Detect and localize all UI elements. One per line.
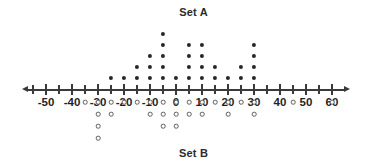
axis-tick-25 [240, 85, 241, 94]
data-point [174, 100, 179, 105]
data-point [83, 100, 88, 105]
axis-label-40: 40 [274, 96, 287, 108]
axis-tick-45 [292, 85, 293, 94]
data-point [226, 112, 231, 117]
data-point [252, 100, 257, 105]
axis-arrow-left [22, 86, 28, 92]
dot-plot-figure: Set A -50-40-30-20-100102030405060 Set B [0, 0, 387, 165]
axis-tick--45 [58, 85, 59, 94]
axis-tick-35 [266, 85, 267, 94]
data-point [148, 100, 153, 105]
axis-line [27, 89, 346, 91]
axis-tick-5 [188, 85, 189, 94]
axis-tick-15 [214, 85, 215, 94]
data-point [96, 136, 101, 141]
axis-tick-55 [318, 85, 319, 94]
axis-tick-10 [201, 84, 202, 95]
axis-tick--25 [110, 85, 111, 94]
axis-tick--35 [84, 85, 85, 94]
data-point [122, 100, 127, 105]
set-b-title: Set B [0, 147, 387, 159]
axis-tick-30 [253, 84, 254, 95]
data-point [226, 100, 231, 105]
axis-tick-0 [175, 84, 176, 95]
data-point [213, 100, 218, 105]
data-point [291, 100, 296, 105]
axis-tick-50 [305, 84, 306, 95]
data-point [109, 112, 114, 117]
number-line-axis: -50-40-30-20-100102030405060 [0, 0, 387, 165]
axis-tick--20 [123, 84, 124, 95]
data-point [161, 124, 166, 129]
axis-tick--30 [97, 84, 98, 95]
axis-tick-20 [227, 84, 228, 95]
data-point [96, 124, 101, 129]
axis-tick--50 [45, 84, 46, 95]
data-point [174, 124, 179, 129]
data-point [174, 112, 179, 117]
data-point [200, 100, 205, 105]
data-point [239, 100, 244, 105]
data-point [135, 100, 140, 105]
axis-tick-60 [331, 84, 332, 95]
data-point [187, 100, 192, 105]
axis-label--50: -50 [38, 96, 55, 108]
axis-label--40: -40 [64, 96, 81, 108]
axis-arrow-right [344, 86, 350, 92]
data-point [96, 100, 101, 105]
data-point [161, 100, 166, 105]
data-point [187, 112, 192, 117]
axis-tick--5 [162, 85, 163, 94]
axis-tick--40 [71, 84, 72, 95]
data-point [96, 112, 101, 117]
data-point [148, 112, 153, 117]
data-point [252, 112, 257, 117]
axis-tick--55 [32, 85, 33, 94]
data-point [200, 112, 205, 117]
data-point [330, 100, 335, 105]
axis-tick-40 [279, 84, 280, 95]
axis-tick--15 [136, 85, 137, 94]
data-point [161, 112, 166, 117]
data-point [109, 100, 114, 105]
axis-tick--10 [149, 84, 150, 95]
axis-label-50: 50 [300, 96, 313, 108]
